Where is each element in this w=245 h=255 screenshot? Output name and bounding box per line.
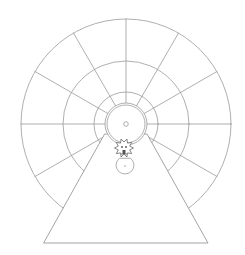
cat-eye-icon — [125, 146, 127, 148]
cat-body-icon — [123, 150, 126, 154]
hub-outer-circle — [105, 103, 147, 145]
bowl-dot-icon — [124, 165, 126, 167]
hub — [105, 103, 147, 145]
cat-eye-icon — [121, 146, 123, 148]
wheel-drawing — [0, 0, 245, 255]
diagram-canvas: Wheel line drawing — [0, 0, 245, 255]
figure — [115, 139, 135, 174]
